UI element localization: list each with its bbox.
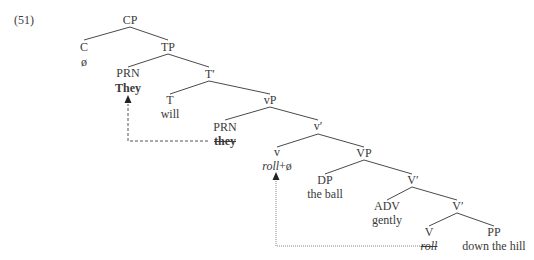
word-will: will [161,108,180,121]
node-v-bar-lower: V′ [452,200,463,213]
word-down-the-hill: down the hill [462,240,525,253]
word-null-suffix: +ø [279,159,292,173]
node-t-bar: T′ [205,68,215,81]
word-roll-null: roll+ø [262,160,292,173]
node-dp: DP [317,174,332,187]
word-gently: gently [372,214,402,227]
node-v: V [425,226,434,239]
node-little-v: v [274,146,280,159]
word-they-trace: they [214,135,236,148]
arrowhead-subject [125,95,132,103]
word-roll-raised: roll [262,159,279,173]
node-little-v-bar: v′ [314,120,323,133]
tree-branches [0,0,534,260]
node-t: T [166,94,173,107]
node-prn-spec-tp: PRN [116,67,139,80]
word-they-moved: They [115,82,141,95]
node-adv: ADV [374,200,400,213]
node-v-bar-upper: V′ [407,174,418,187]
node-vp: VP [356,147,371,160]
node-cp: CP [123,14,138,27]
node-pp: PP [487,226,500,239]
node-little-vp: vP [264,94,277,107]
word-the-ball: the ball [307,188,343,201]
node-tp: TP [161,41,175,54]
word-c-null: ø [81,56,87,69]
node-c: C [80,41,88,54]
arrowhead-verb [273,172,280,180]
node-prn-spec-vp: PRN [213,121,236,134]
word-roll-trace: roll [421,240,438,253]
example-number: (51) [14,13,34,28]
